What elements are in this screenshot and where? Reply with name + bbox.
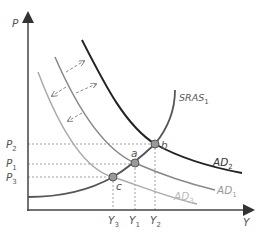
ad3-label: AD3 xyxy=(173,190,194,205)
ad-as-diagram: P Y P2 P1 P3 Y3 Y1 Y2 SRAS1 AD2 AD1 AD3 … xyxy=(0,0,270,238)
ad1-curve xyxy=(55,57,215,190)
sras-label: SRAS1 xyxy=(179,92,209,106)
point-b xyxy=(151,140,159,148)
shift-arrows xyxy=(52,61,96,121)
y-axis-label: P xyxy=(12,17,19,29)
point-a-label: a xyxy=(131,147,137,159)
price-label-p2: P2 xyxy=(6,138,17,153)
output-label-y2: Y2 xyxy=(150,214,161,229)
ad1-label: AD1 xyxy=(216,184,237,199)
point-b-label: b xyxy=(161,139,168,151)
ad2-curve xyxy=(82,40,242,173)
x-axis-label: Y xyxy=(243,216,251,228)
output-label-y3: Y3 xyxy=(108,214,119,229)
point-c-label: c xyxy=(116,180,122,192)
price-label-p3: P3 xyxy=(6,171,17,186)
point-a xyxy=(131,159,139,167)
output-label-y1: Y1 xyxy=(129,214,140,229)
price-label-p1: P1 xyxy=(6,157,17,172)
